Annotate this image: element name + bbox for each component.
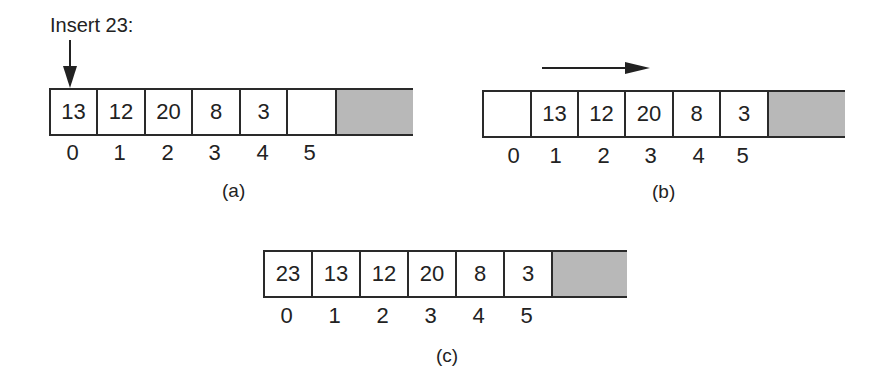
index-b-5: 5 — [719, 143, 766, 169]
cell-c-4: 8 — [455, 250, 503, 298]
cell-a-0: 13 — [49, 88, 96, 136]
cell-a-4: 3 — [239, 88, 286, 136]
cell-b-1: 13 — [530, 90, 577, 138]
cell-b-5: 3 — [719, 90, 767, 138]
array-c: 23 13 12 20 8 3 — [263, 250, 627, 298]
index-c-5: 5 — [503, 303, 550, 329]
caption-b: (b) — [652, 181, 675, 203]
cell-b-4: 8 — [672, 90, 719, 138]
cell-b-2: 12 — [577, 90, 624, 138]
cell-b-0 — [482, 90, 530, 138]
index-b-3: 3 — [627, 143, 674, 169]
index-a-5: 5 — [286, 140, 333, 166]
cell-b-3: 20 — [624, 90, 672, 138]
index-b-1: 1 — [532, 143, 579, 169]
array-b: 13 12 20 8 3 — [482, 90, 845, 138]
index-a-1: 1 — [96, 140, 143, 166]
index-a-0: 0 — [49, 140, 96, 166]
cell-a-2: 20 — [144, 88, 191, 136]
index-c-3: 3 — [407, 303, 454, 329]
index-c-4: 4 — [455, 303, 502, 329]
insert-title: Insert 23: — [50, 14, 133, 37]
caption-c: (c) — [436, 345, 458, 367]
cell-a-1: 12 — [96, 88, 144, 136]
unused-region-c — [551, 250, 627, 298]
index-c-0: 0 — [263, 303, 310, 329]
index-c-1: 1 — [311, 303, 358, 329]
cell-a-5 — [286, 88, 335, 136]
cell-c-5: 3 — [503, 250, 551, 298]
index-a-4: 4 — [239, 140, 286, 166]
cell-c-2: 12 — [359, 250, 407, 298]
index-a-2: 2 — [144, 140, 191, 166]
right-arrow-icon — [540, 58, 655, 78]
cell-a-3: 8 — [191, 88, 239, 136]
down-arrow-icon — [60, 40, 80, 90]
caption-a: (a) — [222, 180, 245, 202]
cell-c-1: 13 — [311, 250, 359, 298]
unused-region-a — [335, 88, 413, 136]
unused-region-b — [767, 90, 845, 138]
index-b-0: 0 — [490, 143, 537, 169]
index-b-2: 2 — [580, 143, 627, 169]
index-c-2: 2 — [359, 303, 406, 329]
index-a-3: 3 — [191, 140, 238, 166]
cell-c-3: 20 — [407, 250, 455, 298]
cell-c-0: 23 — [263, 250, 311, 298]
index-b-4: 4 — [675, 143, 722, 169]
array-a: 13 12 20 8 3 — [49, 88, 413, 136]
